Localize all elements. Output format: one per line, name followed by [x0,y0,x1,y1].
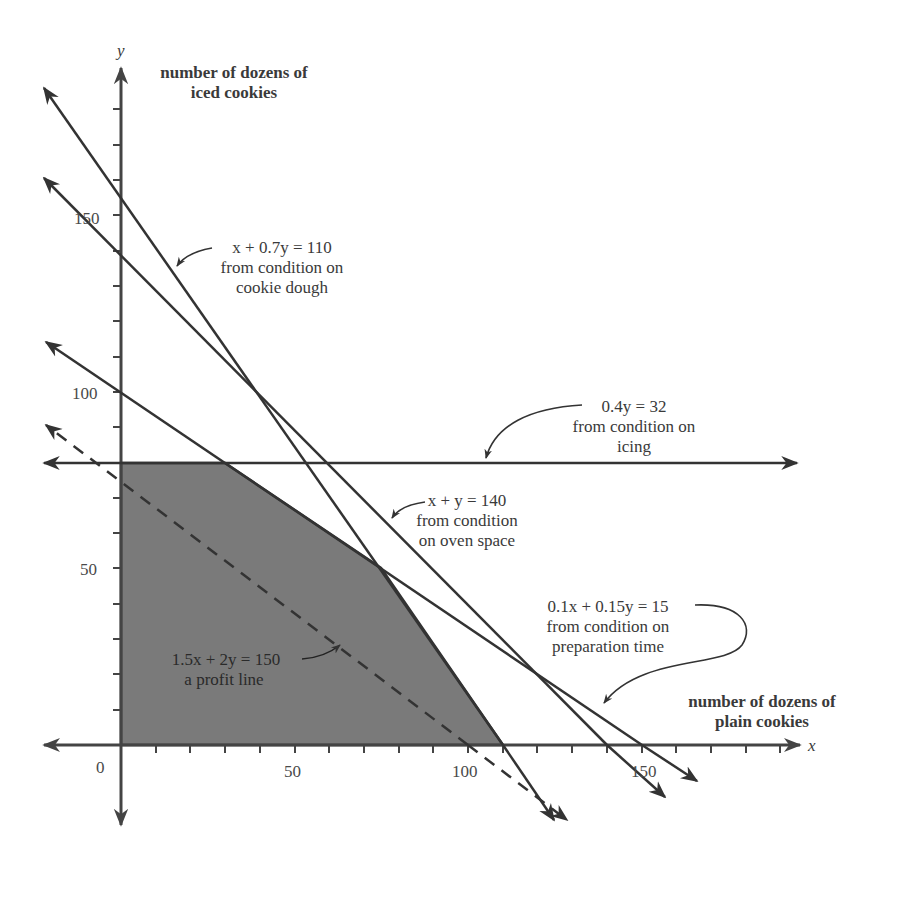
y-axis-title: number of dozens of iced cookies [160,63,308,102]
svg-text:number of dozens of: number of dozens of [688,692,836,711]
tick-label-x-100: 100 [452,762,478,781]
annotation-oven-space: x + y = 140 from condition on oven space [416,491,518,550]
svg-text:from condition on: from condition on [573,417,696,436]
svg-text:iced cookies: iced cookies [191,83,278,102]
annotation-icing: 0.4y = 32 from condition on icing [573,397,696,456]
tick-label-y-150: 150 [74,209,100,228]
tick-label-x-150: 150 [631,762,657,781]
svg-text:from condition on: from condition on [547,617,670,636]
annotation-cookie-dough: x + 0.7y = 110 from condition on cookie … [221,238,344,297]
svg-text:x + y = 140: x + y = 140 [428,491,507,510]
tick-label-y-50: 50 [80,560,97,579]
svg-text:icing: icing [617,437,651,456]
svg-text:on oven space: on oven space [419,531,515,550]
x-axis-title: number of dozens of plain cookies [688,692,836,731]
callout-arrow-icing [486,405,582,458]
svg-text:cookie dough: cookie dough [236,278,329,297]
line-cookie-dough-lower [503,745,554,820]
svg-text:from condition: from condition [416,511,518,530]
svg-text:from condition on: from condition on [221,258,344,277]
linear-programming-chart: y x 0 50 100 150 50 100 150 number of do… [0,0,898,898]
annotation-preparation-time: 0.1x + 0.15y = 15 from condition on prep… [547,597,670,656]
svg-text:plain cookies: plain cookies [715,712,809,731]
profit-line-dashed-lower [468,745,567,820]
svg-text:preparation time: preparation time [552,637,664,656]
tick-label-y-100: 100 [72,384,98,403]
callout-arrow-dough [177,248,212,266]
y-axis-variable: y [115,41,125,60]
svg-text:a profit line: a profit line [184,670,263,689]
svg-text:x + 0.7y = 110: x + 0.7y = 110 [232,238,331,257]
tick-label-x-50: 50 [284,762,301,781]
tick-label-origin: 0 [96,758,105,777]
x-axis-variable: x [807,736,816,755]
svg-text:0.1x + 0.15y = 15: 0.1x + 0.15y = 15 [547,597,668,616]
svg-text:0.4y = 32: 0.4y = 32 [602,397,667,416]
svg-text:1.5x + 2y = 150: 1.5x + 2y = 150 [172,650,280,669]
svg-text:number of dozens of: number of dozens of [160,63,308,82]
